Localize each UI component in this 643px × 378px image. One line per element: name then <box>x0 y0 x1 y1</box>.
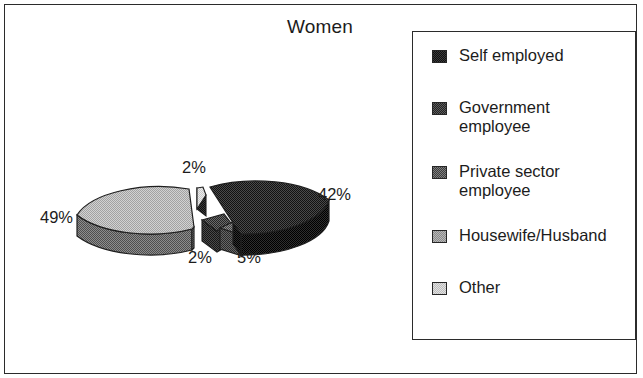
other-swatch <box>432 282 447 295</box>
legend-label-government-employee: Government employee <box>459 98 550 136</box>
pie-chart-plot-area <box>20 140 400 300</box>
housewife-husband-swatch <box>432 230 447 243</box>
pie-slice-other <box>197 187 206 216</box>
legend-item-government-employee: Government employee <box>432 98 550 136</box>
self-employed-swatch <box>432 50 447 63</box>
pie-chart-svg <box>20 140 400 300</box>
chart-legend: Self employed Government employee Privat… <box>412 31 636 340</box>
legend-item-self-employed: Self employed <box>432 46 564 65</box>
pie-slice-housewife-husband <box>77 187 194 255</box>
legend-item-private-sector-employee: Private sector employee <box>432 162 560 200</box>
chart-figure: Women <box>0 0 643 378</box>
legend-label-private-sector-employee: Private sector employee <box>459 162 560 200</box>
legend-item-housewife-husband: Housewife/Husband <box>432 226 607 245</box>
legend-label-other: Other <box>459 278 500 297</box>
slice-label-private-sector-employee: 5% <box>237 248 261 267</box>
slice-label-housewife-husband: 49% <box>40 208 73 227</box>
government-employee-swatch <box>432 102 447 115</box>
slice-label-other: 2% <box>182 158 206 177</box>
legend-label-self-employed: Self employed <box>459 46 564 65</box>
legend-item-other: Other <box>432 278 500 297</box>
private-sector-employee-swatch <box>432 166 447 179</box>
slice-label-self-employed: 42% <box>318 185 351 204</box>
slice-label-government-employee: 2% <box>188 248 212 267</box>
page-title: Women <box>215 16 425 38</box>
legend-label-housewife-husband: Housewife/Husband <box>459 226 607 245</box>
